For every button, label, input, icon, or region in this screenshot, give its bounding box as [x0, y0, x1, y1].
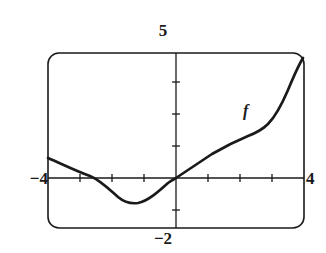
x-axis-min-label: −4 — [8, 170, 48, 187]
y-axis-min-label: −2 — [0, 230, 326, 247]
x-axis-max-label: 4 — [306, 170, 326, 187]
curve-label-f: f — [243, 103, 248, 119]
y-axis-max-label: 5 — [0, 22, 326, 39]
graph-screenshot: 5 −4 4 −2 f — [0, 0, 326, 253]
